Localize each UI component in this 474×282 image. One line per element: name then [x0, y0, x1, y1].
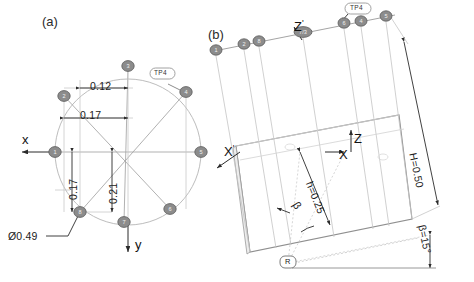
node-b-6[interactable]: 6 — [338, 18, 350, 28]
body-outline — [236, 115, 412, 252]
axis-label-x-prime-text: X — [224, 144, 233, 159]
axis-label-x-b: X — [339, 148, 348, 161]
callout-label-tp4-a[interactable]: TP4 — [154, 70, 167, 77]
baseline-tilted — [294, 238, 418, 263]
node-1[interactable]: 1 — [49, 147, 61, 158]
dim-label-0-17-vertical: 0.17 — [68, 179, 79, 200]
node-b-2[interactable]: 2 — [238, 39, 250, 49]
svg-text:2: 2 — [242, 41, 245, 47]
svg-text:8: 8 — [78, 209, 81, 215]
figure-root: 1 2 3 4 5 6 7 — [0, 0, 474, 282]
callout-label-tp4-b[interactable]: TP4 — [350, 5, 363, 12]
svg-text:6: 6 — [342, 20, 345, 26]
svg-text:5: 5 — [384, 13, 387, 19]
dim-label-0-17-horizontal: 0.17 — [80, 110, 101, 121]
node-6[interactable]: 6 — [164, 204, 176, 215]
node-7[interactable]: 7 — [118, 217, 130, 228]
svg-text:8: 8 — [257, 38, 260, 44]
dim-label-diameter: Ø0.49 — [8, 231, 38, 242]
panel-a-letter: (a) — [42, 15, 58, 28]
node-4[interactable]: 4 — [180, 87, 192, 98]
svg-text:4: 4 — [359, 18, 362, 24]
node-2[interactable]: 2 — [58, 91, 70, 102]
panel-b-graphics: 1 2 8 7/3 6 4 5 — [210, 3, 440, 268]
panel-a-graphics: 1 2 3 4 5 6 7 — [22, 61, 207, 252]
node-b-8[interactable]: 8 — [253, 36, 265, 46]
axis-label-z-prime: Z' — [294, 19, 304, 33]
dim-label-0-12: 0.12 — [90, 81, 111, 92]
node-5[interactable]: 5 — [195, 147, 207, 158]
node-b-1[interactable]: 1 — [210, 45, 222, 55]
marker-label-R[interactable]: R — [285, 258, 290, 266]
node-b-5[interactable]: 5 — [380, 11, 392, 21]
dim-label-0-21-vertical: 0.21 — [108, 183, 119, 204]
node-8[interactable]: 8 — [74, 207, 86, 218]
axis-label-z-b: Z — [354, 132, 362, 145]
svg-text:1: 1 — [214, 47, 217, 53]
svg-text:6: 6 — [168, 206, 171, 212]
panel-b-letter: (b) — [208, 28, 224, 41]
axis-label-x-prime: X' — [224, 144, 234, 158]
svg-text:4: 4 — [184, 89, 187, 95]
node-3[interactable]: 3 — [122, 61, 134, 72]
svg-text:3: 3 — [126, 63, 129, 69]
diagram-canvas: 1 2 3 4 5 6 7 — [0, 0, 474, 282]
callout-leader-tp4-a — [168, 84, 180, 90]
axis-label-x-a: x — [22, 133, 29, 146]
axis-label-z-prime-text: Z — [294, 19, 302, 34]
svg-text:5: 5 — [199, 149, 202, 155]
svg-text:1: 1 — [53, 149, 56, 155]
node-b-4[interactable]: 4 — [355, 16, 367, 26]
axis-label-y-a: y — [135, 238, 142, 251]
svg-text:2: 2 — [62, 93, 65, 99]
svg-text:7: 7 — [122, 219, 125, 225]
